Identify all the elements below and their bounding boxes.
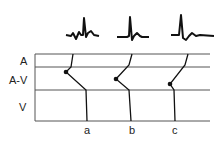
junction-dot-a xyxy=(64,70,69,75)
row-label-av: A-V xyxy=(9,74,28,86)
ladder-diagram: A A-V V a b c xyxy=(0,0,222,143)
row-label-v: V xyxy=(19,101,27,113)
junction-dot-b xyxy=(114,77,119,82)
conduction-a xyxy=(64,54,87,121)
conduction-b xyxy=(114,54,132,121)
junction-dot-c xyxy=(168,82,173,87)
beat-label-b: b xyxy=(129,124,135,136)
ladder-grid xyxy=(35,54,210,121)
conduction-c xyxy=(168,54,188,121)
beat-label-c: c xyxy=(172,124,178,136)
ecg-complex-b xyxy=(117,17,149,40)
row-label-a: A xyxy=(20,55,28,67)
beat-label-a: a xyxy=(84,124,91,136)
ecg-complex-a xyxy=(66,18,99,39)
ecg-complex-c xyxy=(171,15,214,40)
